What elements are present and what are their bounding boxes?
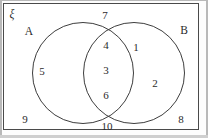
universal-set-rectangle [3, 3, 199, 130]
venn-diagram-figure: ξ A B 7 5 4 3 6 1 2 9 10 8 [0, 0, 208, 138]
element-outside-bottom-left: 9 [22, 114, 28, 125]
element-intersection-2: 3 [103, 65, 109, 76]
set-b-circle [83, 22, 185, 124]
page-edge-bottom [0, 135, 208, 138]
element-intersection-3: 6 [103, 90, 109, 101]
universal-set-symbol: ξ [10, 9, 15, 21]
element-outside-bottom-right: 8 [178, 114, 184, 125]
set-a-label: A [25, 26, 33, 38]
element-b-only-1: 1 [133, 42, 139, 53]
page-edge-right [206, 0, 208, 138]
set-b-label: B [180, 25, 188, 37]
page-edge-top [0, 0, 208, 1]
element-outside-top: 7 [102, 10, 108, 21]
page-edge-left [0, 0, 2, 138]
element-intersection-1: 4 [103, 40, 109, 51]
element-a-only: 5 [39, 66, 45, 77]
element-b-only-2: 2 [152, 78, 158, 89]
element-outside-bottom-center: 10 [102, 121, 113, 132]
